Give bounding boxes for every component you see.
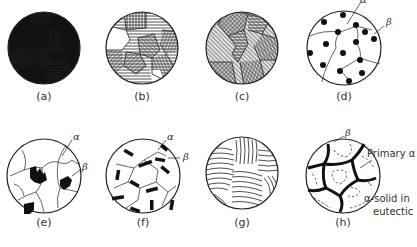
microstructure-diagram <box>0 0 417 247</box>
label-e-beta: β <box>82 161 88 172</box>
panel-a <box>6 10 86 90</box>
panel-g <box>204 135 284 215</box>
caption-f: (f) <box>123 216 163 229</box>
panel-c <box>204 10 284 90</box>
label-h-alpha-eutectic-1: α-solid in <box>364 193 410 204</box>
caption-g: (g) <box>222 216 262 229</box>
label-d-beta: β <box>386 16 392 27</box>
label-h-primary-alpha: Primary α <box>367 148 415 159</box>
label-h-alpha-eutectic-2: eutectic <box>373 206 413 217</box>
caption-b: (b) <box>122 90 162 103</box>
caption-d: (d) <box>324 90 364 103</box>
caption-e: (e) <box>24 216 64 229</box>
caption-c: (c) <box>222 90 262 103</box>
label-d-alpha: α <box>360 0 367 5</box>
panel-d <box>307 2 384 85</box>
caption-a: (a) <box>24 90 64 103</box>
label-h-beta: β <box>345 127 351 138</box>
panel-e <box>7 139 81 214</box>
label-f-beta: β <box>183 151 189 162</box>
label-f-alpha: α <box>167 131 174 142</box>
caption-h: (h) <box>323 216 363 229</box>
label-e-alpha: α <box>73 131 80 142</box>
panel-f <box>106 139 180 213</box>
